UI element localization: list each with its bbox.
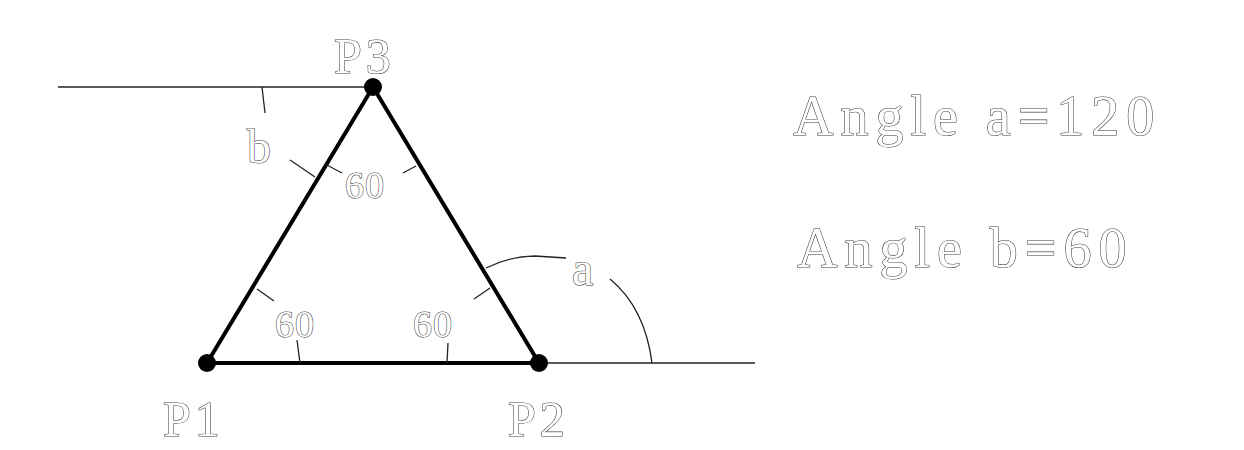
side-p2-p3 <box>373 87 539 363</box>
label-p1: P1 <box>163 391 224 447</box>
arc-b-bottom <box>290 160 315 177</box>
angle-label-p3: 60 <box>345 164 385 206</box>
label-p3: P3 <box>334 28 395 84</box>
angle-label-p2: 60 <box>413 303 453 345</box>
result-angle-b: Angle b=60 <box>797 217 1133 279</box>
arc-p3-right <box>403 166 416 173</box>
angle-label-b: b <box>247 120 275 173</box>
arc-p2-lower <box>447 343 448 363</box>
arc-p2-upper <box>474 288 490 299</box>
point-p2 <box>530 354 548 372</box>
arc-a-right <box>610 279 652 363</box>
angle-label-p1: 60 <box>275 303 315 345</box>
arc-b-top <box>262 87 265 113</box>
arc-p3-left <box>325 164 342 173</box>
arc-p1-upper <box>257 289 274 301</box>
triangle-angle-diagram: P3 P1 P2 60 60 60 b a Angle a=120 Angle … <box>0 0 1244 450</box>
point-p1 <box>198 354 216 372</box>
result-angle-a: Angle a=120 <box>793 85 1161 147</box>
angle-label-a: a <box>572 242 597 295</box>
arc-a-left <box>486 256 566 268</box>
label-p2: P2 <box>508 391 569 447</box>
